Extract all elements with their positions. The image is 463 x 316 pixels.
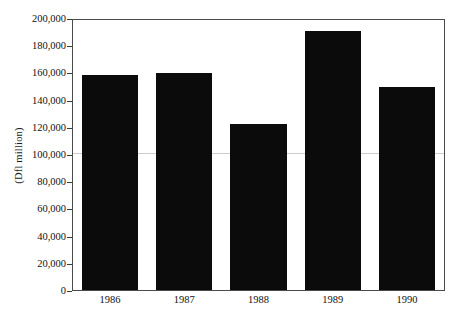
y-axis-tick-label: 140,000 [8, 96, 66, 106]
y-axis-tick-label: 160,000 [8, 68, 66, 78]
y-axis-tick-label: 200,000 [8, 14, 66, 24]
x-axis-tick-label: 1986 [73, 294, 147, 306]
y-axis-tick-label: 100,000 [8, 150, 66, 160]
plot-inner [73, 20, 444, 290]
x-axis-tick-label: 1990 [370, 294, 444, 306]
y-axis-tick-label: 80,000 [8, 177, 66, 187]
bar-chart-figure: (Dfl million) 0 20,000 40,000 60,000 80,… [0, 0, 463, 316]
plot-area [72, 19, 445, 291]
bar-1988 [230, 124, 286, 290]
y-axis-tick-label: 20,000 [8, 259, 66, 269]
y-axis-tick-label: 120,000 [8, 123, 66, 133]
y-axis-tick-label-group: 0 20,000 40,000 60,000 80,000 100,000 12… [8, 19, 66, 291]
bar-1986 [82, 75, 138, 290]
y-axis-tick-mark [67, 291, 72, 292]
bar-1990 [379, 87, 435, 290]
bar-1987 [156, 73, 212, 290]
bar-1989 [305, 31, 361, 290]
x-axis-tick-label: 1987 [147, 294, 221, 306]
x-axis-tick-label: 1988 [221, 294, 295, 306]
x-axis-tick-label: 1989 [296, 294, 370, 306]
y-axis-tick-label: 60,000 [8, 204, 66, 214]
y-axis-tick-label: 40,000 [8, 232, 66, 242]
x-axis-tick-label-group: 1986 1987 1988 1989 1990 [72, 294, 445, 312]
y-axis-tick-label: 180,000 [8, 41, 66, 51]
y-axis-tick-label: 0 [8, 286, 66, 296]
